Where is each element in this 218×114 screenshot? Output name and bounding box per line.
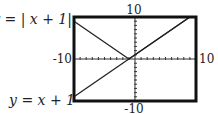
- y-min-label: -10: [124, 102, 143, 114]
- abs-function-line: [74, 17, 190, 59]
- x-max-label: 10: [199, 52, 214, 66]
- linear-function-label: y = x + 1: [8, 92, 75, 108]
- linear-function-line: [74, 17, 190, 97]
- graphing-calculator-window: -10 10 10 -10 y = | x + 1| y = x + 1: [0, 0, 218, 114]
- x-min-label: -10: [53, 52, 72, 66]
- y-max-label: 10: [126, 3, 141, 17]
- plot-lines: [74, 17, 190, 97]
- axes: [74, 17, 196, 101]
- abs-function-label: y = | x + 1|: [0, 11, 72, 28]
